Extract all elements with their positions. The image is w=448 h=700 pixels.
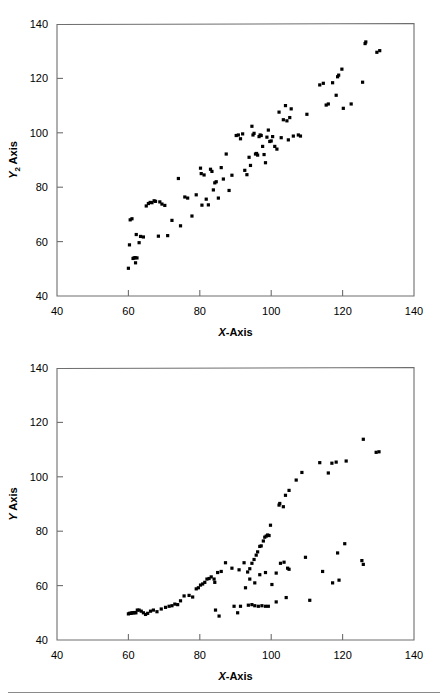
data-point bbox=[248, 567, 251, 570]
x-tick-label: 60 bbox=[122, 305, 134, 317]
data-point bbox=[282, 561, 285, 564]
data-point bbox=[220, 570, 223, 573]
data-point bbox=[202, 173, 205, 176]
y-tick-label: 40 bbox=[36, 290, 48, 302]
data-point bbox=[377, 450, 380, 453]
data-point bbox=[213, 581, 216, 584]
data-point bbox=[261, 145, 264, 148]
data-point bbox=[195, 193, 198, 196]
data-point bbox=[362, 438, 365, 441]
series-middle-branch bbox=[244, 542, 365, 589]
data-point bbox=[224, 561, 227, 564]
data-point bbox=[128, 243, 131, 246]
data-point bbox=[287, 489, 290, 492]
data-point bbox=[157, 235, 160, 238]
y-tick-label: 120 bbox=[30, 72, 48, 84]
data-point bbox=[267, 605, 270, 608]
data-point bbox=[199, 167, 202, 170]
y-tick-label: 120 bbox=[30, 416, 48, 428]
y-axis-label: Y2 Axis bbox=[7, 141, 22, 179]
data-point bbox=[337, 74, 340, 77]
y-tick-label: 80 bbox=[36, 525, 48, 537]
x-tick-label: 100 bbox=[262, 649, 280, 661]
data-point bbox=[237, 568, 240, 571]
x-tick-label: 40 bbox=[51, 649, 63, 661]
data-point bbox=[278, 502, 281, 505]
data-point bbox=[257, 605, 260, 608]
data-point bbox=[335, 461, 338, 464]
data-point bbox=[264, 605, 267, 608]
data-point bbox=[280, 136, 283, 139]
data-point bbox=[299, 134, 302, 137]
data-point bbox=[262, 153, 265, 156]
data-point bbox=[149, 610, 152, 613]
data-point bbox=[252, 558, 255, 561]
data-point bbox=[300, 471, 303, 474]
data-point bbox=[237, 133, 240, 136]
data-point bbox=[321, 570, 324, 573]
data-point bbox=[212, 188, 215, 191]
data-point bbox=[250, 125, 253, 128]
data-point bbox=[279, 562, 282, 565]
x-tick-label: 140 bbox=[405, 305, 423, 317]
data-point bbox=[270, 583, 273, 586]
data-point bbox=[177, 177, 180, 180]
data-point bbox=[217, 614, 220, 617]
data-point bbox=[215, 180, 218, 183]
chart-top-canvas: 406080100120140406080100120140X-AxisY2 A… bbox=[0, 0, 448, 350]
data-point bbox=[155, 610, 158, 613]
data-point bbox=[247, 156, 250, 159]
series-lower-branch bbox=[214, 596, 311, 618]
data-point bbox=[360, 559, 363, 562]
data-point bbox=[210, 575, 213, 578]
chart-bottom: 406080100120140406080100120140X-AxisY Ax… bbox=[0, 350, 448, 700]
data-point bbox=[214, 608, 217, 611]
y-axis-label: Y Axis bbox=[7, 487, 19, 520]
data-point bbox=[331, 81, 334, 84]
data-point bbox=[154, 200, 157, 203]
data-point bbox=[186, 196, 189, 199]
series-series-1 bbox=[127, 40, 382, 270]
data-point bbox=[260, 134, 263, 137]
data-point bbox=[267, 128, 270, 131]
data-point bbox=[342, 107, 345, 110]
data-point bbox=[227, 189, 230, 192]
x-tick-label: 80 bbox=[194, 649, 206, 661]
data-point bbox=[247, 604, 250, 607]
data-point bbox=[335, 94, 338, 97]
data-point bbox=[350, 102, 353, 105]
data-point bbox=[163, 204, 166, 207]
data-point bbox=[164, 606, 167, 609]
data-point bbox=[285, 119, 288, 122]
data-point bbox=[220, 166, 223, 169]
data-point bbox=[200, 204, 203, 207]
data-point bbox=[275, 600, 278, 603]
data-point bbox=[285, 596, 288, 599]
data-point bbox=[362, 563, 365, 566]
data-point bbox=[269, 524, 272, 527]
data-point bbox=[232, 605, 235, 608]
data-point bbox=[190, 214, 193, 217]
data-point bbox=[337, 579, 340, 582]
chart-top: 406080100120140406080100120140X-AxisY2 A… bbox=[0, 0, 448, 350]
data-point bbox=[203, 581, 206, 584]
data-point bbox=[170, 604, 173, 607]
data-point bbox=[139, 235, 142, 238]
data-point bbox=[318, 461, 321, 464]
data-point bbox=[260, 544, 263, 547]
data-point bbox=[364, 40, 367, 43]
data-point bbox=[318, 83, 321, 86]
x-tick-label: 80 bbox=[194, 305, 206, 317]
data-point bbox=[375, 51, 378, 54]
data-point bbox=[253, 581, 256, 584]
data-point bbox=[248, 577, 251, 580]
x-tick-label: 100 bbox=[262, 305, 280, 317]
data-point bbox=[217, 196, 220, 199]
data-point bbox=[230, 567, 233, 570]
data-point bbox=[327, 102, 330, 105]
data-point bbox=[130, 217, 133, 220]
data-point bbox=[239, 605, 242, 608]
data-point bbox=[166, 234, 169, 237]
data-point bbox=[230, 174, 233, 177]
data-point bbox=[287, 568, 290, 571]
